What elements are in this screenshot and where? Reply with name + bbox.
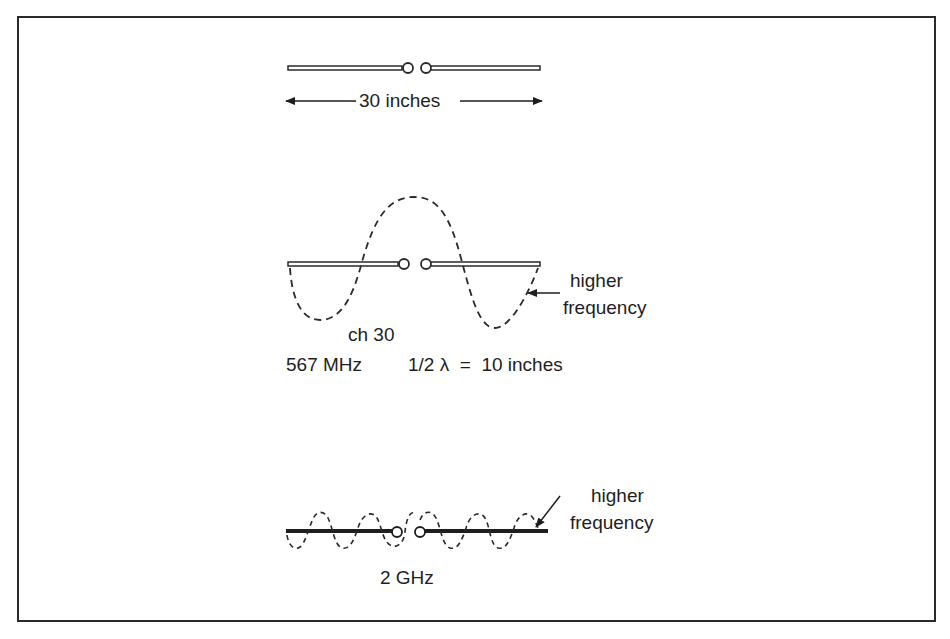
annotation-bottom-line2: frequency (570, 512, 653, 534)
frequency-label-2ghz: 2 GHz (380, 567, 434, 589)
dipole-top (288, 63, 540, 73)
annotation-arrow-bottom (536, 496, 560, 527)
channel-label: ch 30 (348, 324, 394, 346)
antenna-diagram (0, 0, 950, 639)
dipole-bottom (286, 527, 548, 537)
frequency-label-567mhz: 567 MHz (286, 354, 362, 376)
annotation-middle-line2: frequency (563, 297, 646, 319)
annotation-bottom-line1: higher (591, 485, 644, 507)
dipole-middle (288, 259, 540, 269)
wavelength-label: 1/2 λ = 10 inches (408, 354, 563, 376)
dimension-label-30-inches: 30 inches (359, 90, 440, 112)
annotation-middle-line1: higher (570, 270, 623, 292)
